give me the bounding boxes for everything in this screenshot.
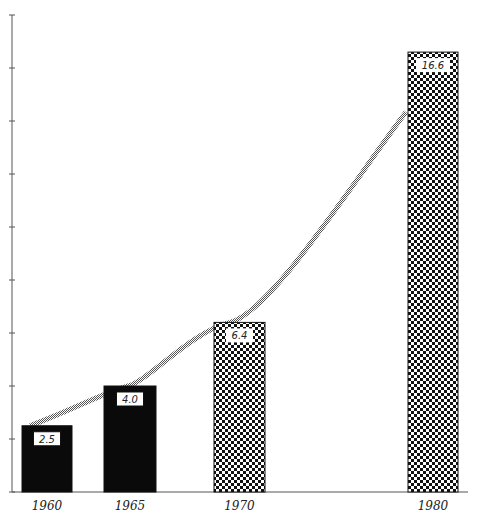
value-label: 2.5 xyxy=(39,434,55,445)
x-label-1960: 1960 xyxy=(32,499,63,513)
value-label: 4.0 xyxy=(122,394,138,405)
x-label-1970: 1970 xyxy=(224,499,255,513)
bar-1960: 2.5 xyxy=(22,426,72,492)
x-label-1965: 1965 xyxy=(115,499,146,513)
bar-1965: 4.0 xyxy=(104,386,156,492)
x-label-1980: 1980 xyxy=(418,499,449,513)
value-label: 6.4 xyxy=(232,330,248,341)
bar-rect xyxy=(408,52,458,492)
bar-1980: 16.6 xyxy=(408,52,458,492)
value-label: 16.6 xyxy=(422,60,444,71)
bar-chart: 2.54.06.416.6 1960196519701980 xyxy=(0,0,479,525)
bar-rect xyxy=(214,322,265,492)
bar-1970: 6.4 xyxy=(214,322,265,492)
x-axis-labels: 1960196519701980 xyxy=(32,499,449,513)
bars: 2.54.06.416.6 xyxy=(22,52,458,492)
